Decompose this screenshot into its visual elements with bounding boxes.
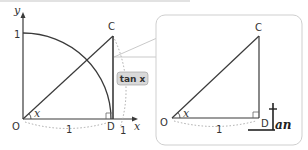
tan-badge-label: tan x xyxy=(120,74,146,84)
angle-label: x xyxy=(34,107,41,120)
y-axis-label: y xyxy=(13,4,21,17)
zoom-point-c-label: C xyxy=(255,22,262,33)
point-c-label: C xyxy=(108,21,115,32)
right-diagram: O x 1 C D an xyxy=(156,15,302,145)
y-tick-label: 1 xyxy=(14,29,20,40)
zoom-point-d-label: D xyxy=(261,118,269,129)
radius-label: 1 xyxy=(66,124,72,135)
point-d-label: D xyxy=(107,121,115,132)
y-axis-arrow-icon xyxy=(21,12,26,18)
zoom-base-label: 1 xyxy=(216,124,222,135)
left-diagram: y 1 O x 1 C D 1 x tan x xyxy=(12,4,148,136)
x-axis-label: x xyxy=(134,120,141,133)
zoom-angle-label: x xyxy=(183,107,190,120)
trig-diagram: y 1 O x 1 C D 1 x tan x O x 1 C D xyxy=(0,0,308,150)
mnemonic-text: an xyxy=(275,118,292,132)
angle-arc xyxy=(29,114,31,120)
arc-end-label: 1 xyxy=(120,125,126,136)
zoom-origin-label: O xyxy=(160,117,168,128)
origin-label: O xyxy=(12,121,20,132)
callout-line-top xyxy=(114,38,157,57)
